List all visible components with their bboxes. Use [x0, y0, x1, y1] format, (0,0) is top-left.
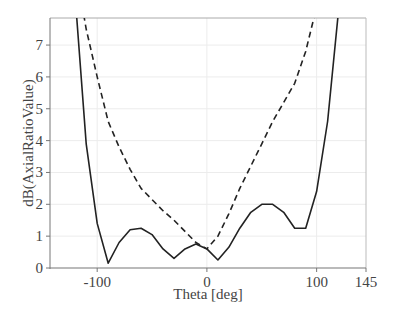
- y-tick-label: 7: [36, 37, 44, 53]
- x-axis-title: Theta [deg]: [173, 286, 243, 302]
- x-tick-label: 100: [305, 274, 328, 290]
- y-axis-ticks: 01234567: [36, 37, 51, 276]
- x-tick-label: 145: [355, 274, 378, 290]
- axial-ratio-chart: -1000100145 01234567 Theta [deg] dB(Axia…: [0, 0, 398, 312]
- dashed-series-line: [75, 0, 316, 249]
- y-tick-label: 1: [36, 228, 44, 244]
- y-tick-label: 5: [36, 101, 44, 117]
- y-tick-label: 4: [36, 133, 44, 149]
- x-tick-label: -100: [83, 274, 111, 290]
- y-tick-label: 6: [36, 69, 44, 85]
- y-tick-label: 3: [36, 164, 44, 180]
- y-axis-title: dB(AxialRatioValue): [20, 79, 37, 206]
- grid-lines: [50, 18, 366, 268]
- y-tick-label: 2: [36, 196, 44, 212]
- y-tick-label: 0: [36, 260, 44, 276]
